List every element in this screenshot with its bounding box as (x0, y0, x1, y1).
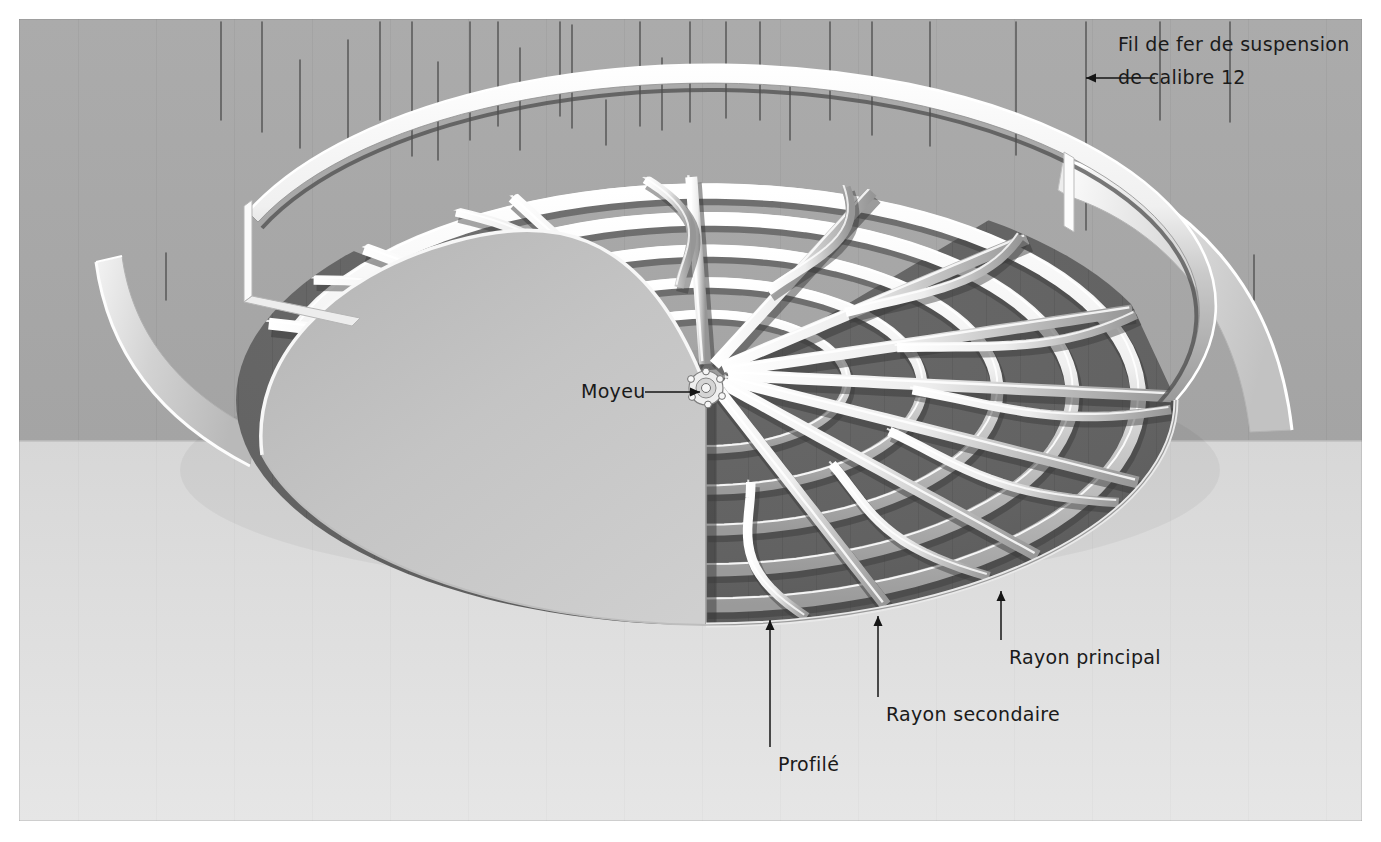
label-hub: Moyeu (581, 380, 646, 402)
rim-cut-left-flange (244, 200, 252, 302)
label-main-ray: Rayon principal (1009, 646, 1161, 668)
label-suspension-wire-line1: Fil de fer de suspension (1118, 33, 1350, 55)
dome-scene (0, 0, 1381, 842)
label-profile: Profilé (778, 753, 839, 775)
label-secondary-ray: Rayon secondaire (886, 703, 1060, 725)
rim-cut-right-flange (1064, 152, 1074, 232)
illustration-canvas: Fil de fer de suspension de calibre 12 M… (0, 0, 1381, 842)
label-suspension-wire-line2: de calibre 12 (1118, 66, 1246, 88)
